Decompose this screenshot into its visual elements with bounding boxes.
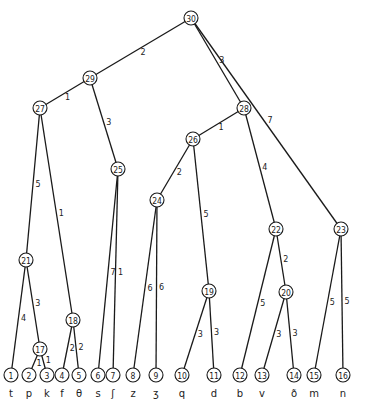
internal-node: 22 [269, 222, 283, 236]
phoneme-label: ʃ [110, 388, 115, 399]
tree-edge [191, 18, 341, 229]
node-id-label: 30 [186, 14, 196, 24]
edge-weight-label: 3 [106, 118, 111, 127]
node-id-label: 3 [45, 371, 50, 381]
phoneme-label: k [44, 388, 50, 399]
leaf-node: 14 [287, 368, 301, 382]
internal-node: 26 [186, 132, 200, 146]
internal-node: 30 [184, 11, 198, 25]
phoneme-label: n [340, 388, 346, 399]
node-id-label: 27 [35, 104, 45, 114]
node-id-label: 13 [257, 371, 267, 381]
edge-weight-label: 5 [260, 299, 265, 308]
leaf-labels: tpkfθsʃzʒqdbvðmn [9, 388, 346, 399]
internal-node: 24 [150, 193, 164, 207]
node-id-label: 29 [85, 74, 95, 84]
node-id-label: 5 [77, 371, 82, 381]
node-id-label: 24 [152, 196, 162, 206]
tree-edge [90, 78, 118, 169]
node-id-label: 25 [113, 165, 123, 175]
node-id-label: 26 [188, 135, 198, 145]
leaf-node: 3 [40, 368, 54, 382]
tree-edge [314, 229, 341, 375]
node-id-label: 20 [281, 288, 291, 298]
phoneme-label: v [259, 388, 265, 399]
edge-weight-label: 5 [344, 297, 349, 306]
internal-node: 28 [237, 101, 251, 115]
internal-node: 17 [33, 342, 47, 356]
phoneme-label: m [309, 388, 319, 399]
edge-weight-label: 3 [35, 299, 40, 308]
tree-edge [341, 229, 343, 375]
node-id-label: 21 [21, 256, 31, 266]
leaf-node: 5 [72, 368, 86, 382]
node-id-label: 2 [27, 371, 32, 381]
tree-edge [240, 229, 276, 375]
node-id-label: 28 [239, 104, 249, 114]
phoneme-label: ð [291, 388, 297, 399]
edge-weight-label: 4 [21, 314, 26, 323]
edge-weight-label: 1 [37, 359, 42, 368]
tree-edge [262, 292, 286, 375]
leaf-node: 8 [126, 368, 140, 382]
leaf-node: 6 [91, 368, 105, 382]
phoneme-label: f [60, 388, 64, 399]
edge-weight-label: 1 [118, 268, 123, 277]
tree-edge [244, 108, 276, 229]
edge-weight-label: 5 [203, 210, 208, 219]
edge-weight-label: 5 [35, 180, 40, 189]
node-id-label: 14 [289, 371, 299, 381]
internal-node: 19 [202, 284, 216, 298]
node-id-label: 8 [131, 371, 136, 381]
edge-weight-label: 3 [214, 328, 219, 337]
phoneme-label: d [211, 388, 217, 399]
edge-weight-label: 2 [283, 255, 288, 264]
phoneme-label: t [9, 388, 13, 399]
tree-edge [156, 200, 157, 375]
node-id-label: 19 [204, 287, 214, 297]
edge-weight-label: 3 [276, 330, 281, 339]
edge-weight-label: 3 [219, 56, 224, 65]
edge-weight-label: 7 [110, 268, 115, 277]
leaf-node: 11 [207, 368, 221, 382]
tree-edge [133, 200, 157, 375]
node-id-label: 16 [338, 371, 348, 381]
tree-edge [40, 108, 73, 320]
edge-weight-label: 2 [78, 343, 83, 352]
phoneme-label: b [237, 388, 243, 399]
phoneme-label: θ [76, 388, 82, 399]
node-id-label: 12 [235, 371, 245, 381]
edge-weight-label: 1 [219, 123, 224, 132]
edge-weight-label: 2 [141, 48, 146, 57]
internal-node: 21 [19, 253, 33, 267]
leaf-node: 7 [106, 368, 120, 382]
node-id-label: 7 [111, 371, 116, 381]
leaf-node: 12 [233, 368, 247, 382]
internal-node: 20 [279, 285, 293, 299]
edge-weight-label: 5 [330, 298, 335, 307]
leaf-node: 10 [175, 368, 189, 382]
edge-weight-label: 1 [46, 356, 51, 365]
node-id-label: 15 [309, 371, 319, 381]
node-id-label: 6 [96, 371, 101, 381]
tree-edge [157, 139, 193, 200]
phoneme-label: q [179, 388, 185, 399]
phoneme-cluster-tree: 23713511425716643112233523355 1234567891… [0, 0, 366, 406]
leaf-node: 1 [4, 368, 18, 382]
internal-node: 25 [111, 162, 125, 176]
node-id-label: 22 [271, 225, 281, 235]
edge-weight-label: 3 [292, 329, 297, 338]
node-id-label: 18 [68, 316, 78, 326]
node-id-label: 11 [209, 371, 219, 381]
leaf-node: 13 [255, 368, 269, 382]
leaf-node: 4 [55, 368, 69, 382]
tree-edge [182, 291, 209, 375]
phoneme-label: z [130, 388, 135, 399]
edge-weight-label: 3 [198, 330, 203, 339]
edge-weight-label: 2 [70, 344, 75, 353]
tree-nodes: 1234567891011121314151617181920212223242… [4, 11, 350, 382]
node-id-label: 9 [154, 371, 159, 381]
node-id-label: 10 [177, 371, 187, 381]
internal-node: 27 [33, 101, 47, 115]
edge-weight-label: 1 [59, 209, 64, 218]
